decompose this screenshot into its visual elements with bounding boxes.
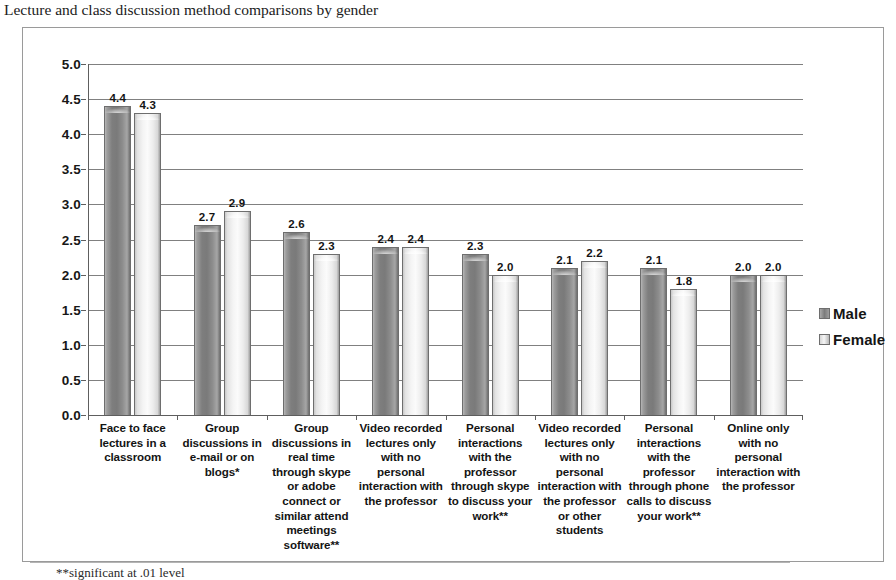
page-title: Lecture and class discussion method comp…: [4, 0, 378, 19]
bar-value-label: 2.3: [467, 240, 484, 252]
bar-female[interactable]: 2.4: [402, 247, 429, 415]
x-axis-category-label: Video recorded lectures only with no per…: [358, 421, 443, 509]
y-axis-tick-label: 5.0: [39, 57, 81, 72]
bar-pair: 2.62.3: [283, 64, 340, 415]
legend-item-female[interactable]: Female: [819, 326, 896, 352]
bar-pair: 2.42.4: [372, 64, 429, 415]
bar-group: 2.32.0: [446, 64, 535, 415]
bar-male[interactable]: 2.1: [640, 268, 667, 415]
legend-item-male[interactable]: Male: [819, 300, 896, 326]
bar-value-label: 2.0: [765, 261, 782, 273]
legend-label: Female: [833, 331, 885, 348]
bar-pair: 2.12.2: [551, 64, 608, 415]
y-axis-tick-label: 4.5: [39, 92, 81, 107]
bar-value-label: 1.8: [676, 275, 693, 287]
x-axis-category-label: Personal interactions with the professor…: [448, 421, 533, 523]
y-axis-tick-label: 3.0: [39, 197, 81, 212]
legend-swatch-female: [819, 334, 830, 345]
y-axis-tick-mark: [81, 415, 86, 416]
bar-value-label: 2.7: [199, 211, 216, 223]
bar-group: 2.62.3: [267, 64, 356, 415]
y-axis-tick-mark: [81, 380, 86, 381]
bar-value-label: 2.1: [556, 254, 573, 266]
bar-group: 2.72.9: [177, 64, 266, 415]
y-axis-tick-mark: [81, 99, 86, 100]
bar-group: 2.12.2: [535, 64, 624, 415]
bar-value-label: 2.6: [288, 218, 305, 230]
bar-female[interactable]: 2.0: [760, 275, 787, 415]
y-axis-tick-mark: [81, 345, 86, 346]
bar-pair: 2.11.8: [640, 64, 697, 415]
bar-male[interactable]: 2.1: [551, 268, 578, 415]
bar-pair: 4.44.3: [104, 64, 161, 415]
bar-female[interactable]: 2.3: [313, 254, 340, 415]
y-axis-tick-mark: [81, 169, 86, 170]
y-axis-tick-label: 1.0: [39, 337, 81, 352]
x-axis-tick-mark: [446, 415, 447, 420]
footnote-divider: [30, 562, 790, 563]
bar-male[interactable]: 2.0: [730, 275, 757, 415]
chart-container: 5.04.54.03.53.02.52.01.51.00.50.0 4.44.3…: [22, 27, 884, 562]
bar-value-label: 2.2: [586, 247, 603, 259]
x-axis-tick-mark: [267, 415, 268, 420]
y-axis-tick-label: 4.0: [39, 127, 81, 142]
y-axis-tick-label: 0.5: [39, 372, 81, 387]
bar-pair: 2.72.9: [194, 64, 251, 415]
bar-group: 2.11.8: [624, 64, 713, 415]
legend-swatch-male: [819, 308, 830, 319]
bar-value-label: 4.3: [139, 99, 156, 111]
bar-male[interactable]: 2.4: [372, 247, 399, 415]
x-axis-category-label: Group discussions in e-mail or on blogs*: [179, 421, 264, 479]
y-axis-tick-label: 3.5: [39, 162, 81, 177]
y-axis-tick-label: 2.0: [39, 267, 81, 282]
x-axis-tick-mark: [356, 415, 357, 420]
x-axis-category-label: Group discussions in real time through s…: [269, 421, 354, 552]
x-axis-category-label: Online only with no personal interaction…: [716, 421, 801, 494]
bar-male[interactable]: 2.7: [194, 225, 221, 415]
x-axis-tick-mark: [88, 415, 89, 420]
bar-group: 4.44.3: [88, 64, 177, 415]
y-axis-tick-label: 2.5: [39, 232, 81, 247]
y-axis-tick-label: 0.0: [39, 408, 81, 423]
bar-female[interactable]: 4.3: [134, 113, 161, 415]
bars-layer: 4.44.32.72.92.62.32.42.42.32.02.12.22.11…: [88, 64, 803, 415]
plot-area: 4.44.32.72.92.62.32.42.42.32.02.12.22.11…: [88, 64, 803, 415]
bar-group: 2.02.0: [714, 64, 803, 415]
y-axis-tick-mark: [81, 204, 86, 205]
bar-group: 2.42.4: [356, 64, 445, 415]
bar-female[interactable]: 2.9: [224, 211, 251, 415]
x-axis-tick-mark: [802, 415, 803, 420]
y-axis-tick-mark: [81, 64, 86, 65]
footnote: **significant at .01 level: [56, 565, 185, 580]
y-axis-labels: 5.04.54.03.53.02.52.01.51.00.50.0: [33, 64, 81, 415]
x-axis-category-labels: Face to face lectures in a classroomGrou…: [88, 421, 803, 561]
bar-male[interactable]: 2.3: [462, 254, 489, 415]
x-axis-tick-mark: [624, 415, 625, 420]
x-axis-tick-mark: [177, 415, 178, 420]
y-axis-tick-mark: [81, 240, 86, 241]
bar-male[interactable]: 2.6: [283, 232, 310, 415]
bar-value-label: 2.1: [646, 254, 663, 266]
bar-value-label: 2.3: [318, 240, 335, 252]
bar-female[interactable]: 2.0: [492, 275, 519, 415]
bar-value-label: 2.4: [378, 233, 395, 245]
x-axis-tick-mark: [714, 415, 715, 420]
bar-female[interactable]: 1.8: [670, 289, 697, 415]
y-axis-tick-label: 1.5: [39, 302, 81, 317]
bar-value-label: 2.9: [229, 197, 246, 209]
bar-pair: 2.02.0: [730, 64, 787, 415]
bar-value-label: 2.0: [735, 261, 752, 273]
x-axis-category-label: Video recorded lectures only with no per…: [537, 421, 622, 538]
bar-value-label: 2.4: [408, 233, 425, 245]
legend-label: Male: [833, 305, 867, 322]
bar-female[interactable]: 2.2: [581, 261, 608, 415]
bar-male[interactable]: 4.4: [104, 106, 131, 415]
bar-value-label: 4.4: [109, 92, 126, 104]
x-axis-category-label: Personal interactions with the professor…: [626, 421, 711, 523]
bar-pair: 2.32.0: [462, 64, 519, 415]
y-axis-tick-mark: [81, 134, 86, 135]
legend: MaleFemale: [819, 300, 896, 352]
y-axis-tick-mark: [81, 310, 86, 311]
x-axis-tick-mark: [535, 415, 536, 420]
y-axis-tick-mark: [81, 275, 86, 276]
